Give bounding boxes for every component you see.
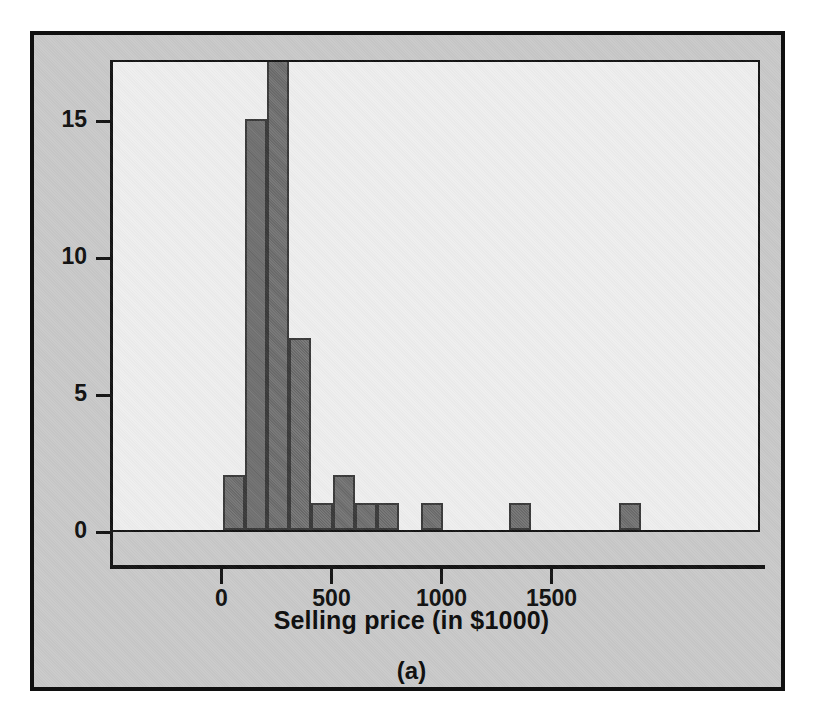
x-axis-tick: 1000 <box>440 569 443 584</box>
histogram-bar <box>355 503 377 530</box>
y-axis-tick-label: 15 <box>61 106 87 133</box>
histogram-bar <box>421 503 443 530</box>
x-axis-line <box>110 565 765 569</box>
y-axis-line <box>110 60 113 568</box>
histogram-bar <box>223 475 245 530</box>
histogram-bar <box>333 475 355 530</box>
histogram-bar <box>311 503 333 530</box>
y-axis-tick: 5 <box>96 394 111 397</box>
y-axis-tick-label: 0 <box>74 517 87 544</box>
histogram-bar <box>267 60 289 530</box>
panel-caption: (a) <box>34 657 789 685</box>
histogram-plot-area <box>110 60 760 532</box>
y-axis-tick: 0 <box>96 531 111 534</box>
histogram-bar <box>377 503 399 530</box>
figure-frame: 051015 050010001500 Selling price (in $1… <box>30 31 785 691</box>
histogram-bar <box>619 503 641 530</box>
y-axis-tick: 10 <box>96 257 111 260</box>
y-axis-tick: 15 <box>96 120 111 123</box>
histogram-bar <box>245 119 267 530</box>
x-axis-tick: 500 <box>330 569 333 584</box>
y-axis-tick-label: 10 <box>61 243 87 270</box>
x-axis-tick: 0 <box>220 569 223 584</box>
y-axis-tick-label: 5 <box>74 380 87 407</box>
histogram-bar <box>289 338 311 530</box>
x-axis-tick: 1500 <box>550 569 553 584</box>
histogram-bar <box>509 503 531 530</box>
x-axis-title: Selling price (in $1000) <box>34 606 789 635</box>
